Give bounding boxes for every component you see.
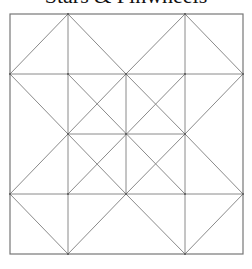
pattern-line [10, 74, 68, 134]
pattern-vertices [9, 13, 244, 255]
vertex-dot [125, 193, 127, 195]
pattern-line [10, 14, 68, 74]
vertex-dot [242, 193, 244, 195]
vertex-dot [67, 133, 69, 135]
vertex-dot [67, 73, 69, 75]
pattern-line [68, 194, 126, 254]
vertex-dot [184, 133, 186, 135]
pattern-line [185, 74, 243, 134]
vertex-dot [9, 193, 11, 195]
pattern-line [68, 14, 126, 74]
quilt-diagram [0, 0, 252, 269]
pattern-line [126, 194, 185, 254]
vertex-dot [184, 13, 186, 15]
vertex-dot [184, 193, 186, 195]
vertex-dot [67, 253, 69, 255]
vertex-dot [184, 253, 186, 255]
vertex-dot [9, 73, 11, 75]
vertex-dot [125, 133, 127, 135]
vertex-dot [67, 13, 69, 15]
pattern-line [185, 194, 243, 254]
pattern-line [10, 194, 68, 254]
pattern-line [185, 134, 243, 194]
pattern-line [185, 14, 243, 74]
vertex-dot [125, 73, 127, 75]
pattern-line [10, 134, 68, 194]
vertex-dot [67, 193, 69, 195]
vertex-dot [242, 73, 244, 75]
vertex-dot [184, 73, 186, 75]
pattern-line [126, 14, 185, 74]
